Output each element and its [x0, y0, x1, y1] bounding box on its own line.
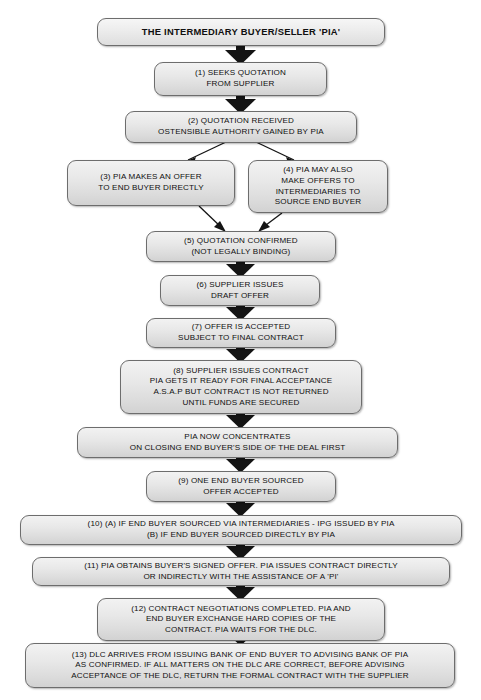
node-step-13-label: (13) DLC ARRIVES FROM ISSUING BANK OF EN…	[31, 650, 449, 682]
node-step-12-label: (12) CONTRACT NEGOTIATIONS COMPLETED. PI…	[103, 604, 379, 636]
arrow-step3-to-step5	[199, 206, 226, 232]
flowchart-connectors	[0, 0, 481, 700]
node-step-1: (1) SEEKS QUOTATION FROM SUPPLIER	[154, 62, 327, 96]
node-step-8-label: (8) SUPPLIER ISSUES CONTRACT PIA GETS IT…	[126, 366, 356, 408]
arrow-step4-to-step5	[258, 213, 282, 232]
node-step-7: (7) OFFER IS ACCEPTED SUBJECT TO FINAL C…	[146, 318, 336, 348]
node-step-4-label: (4) PIA MAY ALSO MAKE OFFERS TO INTERMED…	[254, 165, 382, 207]
node-step-3: (3) PIA MAKES AN OFFER TO END BUYER DIRE…	[67, 160, 235, 206]
node-step-13: (13) DLC ARRIVES FROM ISSUING BANK OF EN…	[25, 643, 455, 688]
node-step-10: (10) (A) IF END BUYER SOURCED VIA INTERM…	[20, 515, 462, 545]
node-step-4: (4) PIA MAY ALSO MAKE OFFERS TO INTERMED…	[248, 160, 388, 213]
node-step-9-label: (9) ONE END BUYER SOURCED OFFER ACCEPTED	[152, 476, 330, 497]
node-step-1-label: (1) SEEKS QUOTATION FROM SUPPLIER	[160, 68, 321, 89]
node-step-3-label: (3) PIA MAKES AN OFFER TO END BUYER DIRE…	[73, 172, 229, 193]
node-step-8: (8) SUPPLIER ISSUES CONTRACT PIA GETS IT…	[120, 360, 362, 414]
node-step-2-label: (2) QUOTATION RECEIVED OSTENSIBLE AUTHOR…	[131, 116, 351, 137]
node-step-2: (2) QUOTATION RECEIVED OSTENSIBLE AUTHOR…	[125, 111, 357, 143]
node-step-11-label: (11) PIA OBTAINS BUYER'S SIGNED OFFER. P…	[38, 561, 444, 582]
node-step-11: (11) PIA OBTAINS BUYER'S SIGNED OFFER. P…	[32, 557, 450, 586]
node-step-6-label: (6) SUPPLIER ISSUES DRAFT OFFER	[166, 280, 314, 301]
node-step-5: (5) QUOTATION CONFIRMED (NOT LEGALLY BIN…	[146, 231, 336, 262]
flowchart-canvas: THE INTERMEDIARY BUYER/SELLER 'PIA' (1) …	[0, 0, 481, 700]
node-step-8b: PIA NOW CONCENTRATES ON CLOSING END BUYE…	[77, 427, 398, 458]
node-step-12: (12) CONTRACT NEGOTIATIONS COMPLETED. PI…	[97, 598, 385, 641]
node-title: THE INTERMEDIARY BUYER/SELLER 'PIA'	[97, 18, 385, 46]
node-step-5-label: (5) QUOTATION CONFIRMED (NOT LEGALLY BIN…	[152, 236, 330, 257]
node-step-9: (9) ONE END BUYER SOURCED OFFER ACCEPTED	[146, 471, 336, 502]
node-step-6: (6) SUPPLIER ISSUES DRAFT OFFER	[160, 275, 320, 306]
node-step-10-label: (10) (A) IF END BUYER SOURCED VIA INTERM…	[26, 519, 456, 540]
node-title-label: THE INTERMEDIARY BUYER/SELLER 'PIA'	[103, 27, 379, 38]
node-step-8b-label: PIA NOW CONCENTRATES ON CLOSING END BUYE…	[83, 432, 392, 453]
node-step-7-label: (7) OFFER IS ACCEPTED SUBJECT TO FINAL C…	[152, 322, 330, 343]
